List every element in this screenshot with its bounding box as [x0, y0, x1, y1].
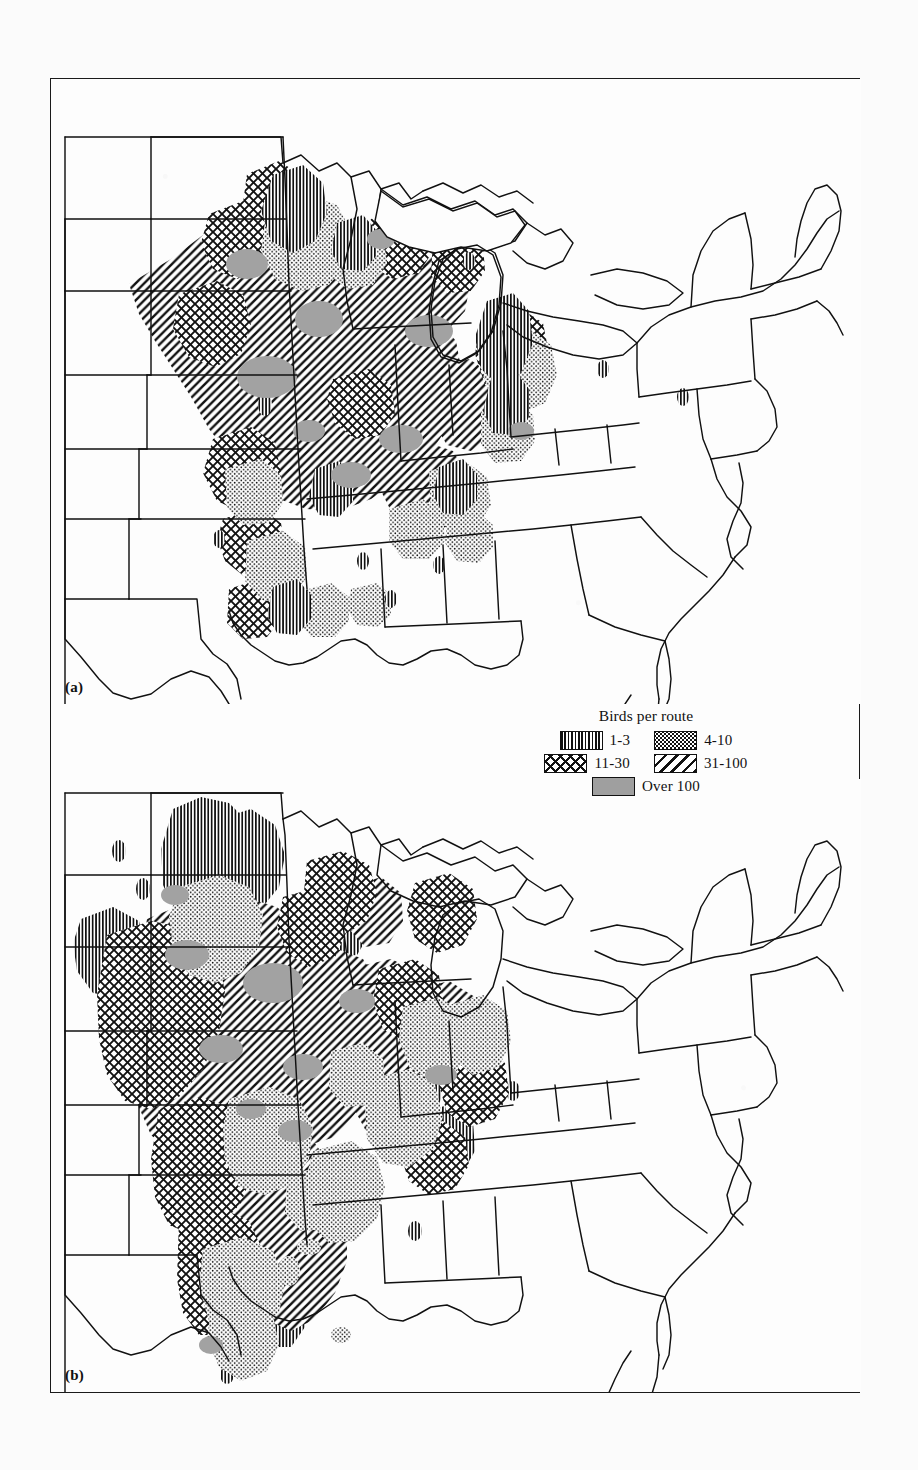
- swatch-31-100-icon: [654, 754, 697, 773]
- swatch-11-30-icon: [544, 754, 587, 773]
- legend-label-4-10: 4-10: [704, 732, 732, 749]
- legend-label-1-3: 1-3: [610, 732, 631, 749]
- legend-row-1: 1-3 4-10: [481, 731, 811, 750]
- legend-row-2: 11-30 31-100: [481, 754, 811, 773]
- map-a-graphic: [51, 79, 861, 704]
- legend-item-1-3: 1-3: [560, 731, 631, 750]
- legend-item-4-10: 4-10: [654, 731, 732, 750]
- map-b-graphic: [51, 779, 861, 1392]
- legend-item-31-100: 31-100: [654, 754, 748, 773]
- swatch-over-100-icon: [592, 777, 635, 796]
- figure-frame: (a): [50, 78, 860, 1393]
- swatch-1-3-icon: [560, 731, 603, 750]
- legend-title: Birds per route: [481, 707, 811, 725]
- legend-item-11-30: 11-30: [544, 754, 629, 773]
- map-panel-a: (a): [51, 79, 861, 704]
- legend-label-31-100: 31-100: [704, 755, 748, 772]
- panel-b-label: (b): [65, 1367, 84, 1384]
- map-panel-b: (b): [51, 779, 861, 1392]
- map-legend: Birds per route 1-3 4-10 11-30 31-100: [481, 707, 811, 775]
- legend-item-over-100: Over 100: [592, 777, 700, 796]
- legend-label-over-100: Over 100: [642, 778, 700, 795]
- legend-label-11-30: 11-30: [594, 755, 629, 772]
- panel-a-label: (a): [65, 679, 83, 696]
- swatch-4-10-icon: [654, 731, 697, 750]
- legend-row-3: Over 100: [481, 777, 811, 796]
